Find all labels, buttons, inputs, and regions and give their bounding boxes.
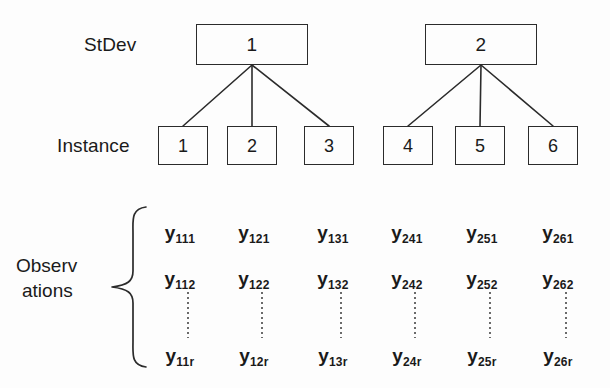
observation-continuation-dots [261,292,263,338]
observation-variable: y [392,345,403,366]
observation-variable: y [317,222,328,243]
edge-stdev2-instance4 [408,65,481,126]
edge-stdev1-instance1 [183,65,252,126]
observation-cell-y262: y262 [542,268,574,290]
observation-cell-y26r: y26r [543,345,573,367]
observation-variable: y [166,345,177,366]
observation-variable: y [317,268,328,289]
observation-subscript: 111 [176,232,196,246]
observation-subscript: 26r [554,355,573,369]
observation-cell-y111: y111 [165,222,195,244]
observation-cell-y261: y261 [542,222,574,244]
row-label-stdev: StDev [84,34,136,56]
observation-subscript: 242 [402,278,423,292]
stdev-node-2-label: 2 [476,35,487,54]
observation-subscript: 12r [250,355,269,369]
observation-variable: y [239,345,250,366]
observation-cell-y251: y251 [466,222,498,244]
observation-cell-y132: y132 [317,268,349,290]
observation-continuation-dots [187,292,189,338]
edge-stdev2-instance5 [480,65,481,126]
instance-node-6[interactable]: 6 [528,126,578,165]
edge-stdev1-instance3 [252,65,329,126]
row-label-instance: Instance [57,135,130,157]
observation-continuation-dots [414,292,416,338]
observation-variable: y [466,268,477,289]
observation-variable: y [542,268,553,289]
observation-cell-y13r: y13r [318,345,348,367]
observations-label-line1: Observ [16,253,108,278]
observation-variable: y [391,268,402,289]
observation-cell-y12r: y12r [239,345,269,367]
observation-cell-y122: y122 [238,268,270,290]
stdev-node-1[interactable]: 1 [196,24,308,65]
instance-node-2[interactable]: 2 [227,126,277,165]
observation-subscript: 25r [478,355,497,369]
observation-subscript: 13r [329,355,348,369]
edge-stdev2-instance6 [481,65,553,126]
observation-subscript: 121 [249,232,270,246]
observation-variable: y [238,222,249,243]
stdev-node-2[interactable]: 2 [425,24,537,65]
observation-variable: y [466,222,477,243]
observation-variable: y [165,268,176,289]
observation-subscript: 132 [328,278,349,292]
instance-node-2-label: 2 [247,137,257,155]
observation-subscript: 112 [175,278,195,292]
instance-node-5[interactable]: 5 [455,126,505,165]
instance-node-3[interactable]: 3 [304,126,354,165]
observation-subscript: 131 [328,232,349,246]
observations-brace [112,207,146,367]
observation-variable: y [318,345,329,366]
observation-subscript: 261 [553,232,574,246]
stdev-node-1-label: 1 [247,35,258,54]
observation-cell-y25r: y25r [467,345,497,367]
observation-subscript: 262 [553,278,574,292]
observation-continuation-dots [565,292,567,338]
observation-variable: y [543,345,554,366]
instance-node-6-label: 6 [548,137,558,155]
observation-subscript: 252 [477,278,498,292]
observation-cell-y241: y241 [391,222,423,244]
observation-continuation-dots [340,292,342,338]
observation-subscript: 241 [402,232,423,246]
nested-design-diagram: StDev Instance Observ ations 1 2 1 2 3 4… [0,0,610,388]
instance-node-4-label: 4 [403,137,413,155]
observation-subscript: 24r [403,355,422,369]
observation-cell-y242: y242 [391,268,423,290]
observation-cell-y11r: y11r [166,345,195,367]
observation-cell-y131: y131 [317,222,349,244]
observation-variable: y [165,222,176,243]
observation-subscript: 122 [249,278,270,292]
observation-subscript: 11r [176,355,194,369]
observation-continuation-dots [489,292,491,338]
observation-variable: y [391,222,402,243]
observation-variable: y [542,222,553,243]
observation-cell-y112: y112 [165,268,196,290]
observation-subscript: 251 [477,232,498,246]
instance-node-3-label: 3 [324,137,334,155]
observation-cell-y121: y121 [238,222,270,244]
instance-node-1[interactable]: 1 [158,126,208,165]
instance-node-4[interactable]: 4 [383,126,433,165]
observations-label-line2: ations [16,278,108,303]
observation-cell-y24r: y24r [392,345,422,367]
observation-cell-y252: y252 [466,268,498,290]
instance-node-5-label: 5 [475,137,485,155]
instance-node-1-label: 1 [178,137,188,155]
row-label-observations: Observ ations [16,253,108,303]
observation-variable: y [467,345,478,366]
observation-variable: y [238,268,249,289]
